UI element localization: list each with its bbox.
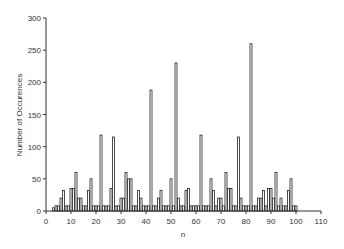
bar <box>150 90 152 211</box>
bar <box>295 206 297 211</box>
bar <box>210 179 212 211</box>
bar <box>103 206 105 211</box>
y-tick-label: 200 <box>28 78 42 87</box>
bar <box>238 137 240 211</box>
x-tick-label: 50 <box>167 217 176 226</box>
bar <box>118 206 120 211</box>
bar <box>258 198 260 211</box>
bar <box>163 206 165 211</box>
bar <box>278 206 280 211</box>
bar <box>75 172 77 211</box>
x-tick-label: 10 <box>67 217 76 226</box>
bar <box>270 188 272 211</box>
bar <box>213 190 215 211</box>
bar <box>113 137 115 211</box>
bar <box>263 190 265 211</box>
bar <box>68 206 70 211</box>
bar <box>78 198 80 211</box>
bar <box>193 206 195 211</box>
histogram-chart: 0501001502002503000102030405060708090100… <box>0 0 344 249</box>
bar <box>83 206 85 211</box>
bar <box>133 206 135 211</box>
bar <box>253 206 255 211</box>
bar <box>190 206 192 211</box>
bar <box>173 206 175 211</box>
bar <box>140 198 142 211</box>
x-tick-label: 40 <box>142 217 151 226</box>
bar <box>235 206 237 211</box>
bar <box>145 206 147 211</box>
bar <box>268 188 270 211</box>
bar <box>165 206 167 211</box>
bar <box>223 206 225 211</box>
bar <box>158 198 160 211</box>
y-tick-label: 50 <box>32 175 41 184</box>
bar <box>273 198 275 211</box>
bar <box>110 188 112 211</box>
bar <box>265 206 267 211</box>
bar <box>160 190 162 211</box>
y-tick-label: 300 <box>28 14 42 23</box>
bar <box>208 206 210 211</box>
bar <box>65 206 67 211</box>
bar <box>123 198 125 211</box>
bar <box>245 206 247 211</box>
y-tick-label: 100 <box>28 143 42 152</box>
bar <box>220 198 222 211</box>
x-tick-label: 100 <box>289 217 303 226</box>
x-tick-label: 110 <box>315 217 328 226</box>
bar <box>58 206 60 211</box>
bar <box>290 179 292 211</box>
bar <box>120 198 122 211</box>
bar <box>215 206 217 211</box>
y-tick-label: 150 <box>28 111 42 120</box>
chart-canvas: 0501001502002503000102030405060708090100… <box>0 0 344 249</box>
bar <box>130 179 132 211</box>
bar <box>125 172 127 211</box>
bar <box>98 206 100 211</box>
bar <box>143 206 145 211</box>
bar <box>255 206 257 211</box>
bar <box>168 206 170 211</box>
bar <box>88 190 90 211</box>
bar <box>250 44 252 211</box>
bar <box>283 206 285 211</box>
bar <box>93 206 95 211</box>
bar <box>138 190 140 211</box>
bar <box>185 190 187 211</box>
bar <box>135 206 137 211</box>
bar <box>188 188 190 211</box>
bar <box>228 188 230 211</box>
bars-group <box>53 44 298 211</box>
bar <box>230 188 232 211</box>
y-axis-label: Number of Occurences <box>15 74 24 156</box>
bar <box>55 206 57 211</box>
bar <box>63 190 65 211</box>
y-tick-label: 0 <box>37 207 42 216</box>
y-tick-label: 250 <box>28 46 42 55</box>
bar <box>285 206 287 211</box>
bar <box>60 198 62 211</box>
x-tick-label: 20 <box>92 217 101 226</box>
bar <box>73 188 75 211</box>
bar <box>275 172 277 211</box>
x-tick-label: 80 <box>242 217 251 226</box>
bar <box>95 206 97 211</box>
bar <box>198 206 200 211</box>
x-tick-label: 60 <box>192 217 201 226</box>
bar <box>115 206 117 211</box>
bar <box>180 206 182 211</box>
bar <box>178 198 180 211</box>
bar <box>100 135 102 211</box>
bar <box>248 206 250 211</box>
bar <box>70 188 72 211</box>
bar <box>90 179 92 211</box>
bar <box>260 198 262 211</box>
bar <box>218 198 220 211</box>
bar <box>175 63 177 211</box>
bar <box>195 206 197 211</box>
bar <box>288 190 290 211</box>
bar <box>280 198 282 211</box>
bar <box>205 206 207 211</box>
bar <box>153 206 155 211</box>
